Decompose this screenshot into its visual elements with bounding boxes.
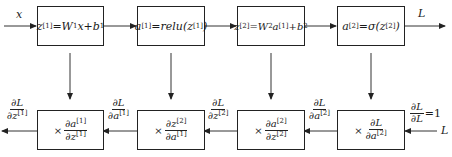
output-loss-label: L (418, 7, 425, 20)
superscript: [1] (177, 130, 187, 138)
symbol: =W (52, 20, 73, 33)
denominator: ∂L (410, 114, 424, 125)
subscript: 1 (100, 22, 104, 30)
superscript: [1] (193, 22, 203, 30)
fraction: ∂z[2] ∂a[1] (165, 118, 188, 143)
denominator: ∂z (7, 110, 17, 121)
superscript: [2] (176, 117, 186, 125)
backward-box-da1-dz1: × ∂a[1] ∂z[1] (37, 110, 104, 150)
symbol: =relu(z (151, 20, 193, 33)
superscript: [2] (277, 117, 287, 125)
grad-dL-da1: ∂L ∂a[1] (107, 98, 130, 121)
denominator: ∂a (108, 110, 119, 121)
backward-box-dL-da2: × ∂L ∂a[2] (337, 110, 405, 150)
superscript: [1] (141, 22, 151, 30)
numerator: ∂L (370, 117, 382, 128)
symbol: =W (249, 21, 268, 32)
symbol: =σ(z (359, 20, 386, 33)
times-sign: × (154, 125, 162, 136)
backward-input-loss-label: L (441, 124, 448, 137)
denominator: ∂z (208, 110, 218, 121)
superscript: [2] (240, 22, 250, 30)
forward-box-a2: a[2]=σ(z[2]) (337, 6, 405, 46)
superscript: [2] (276, 130, 286, 138)
superscript: [2] (218, 109, 228, 117)
fraction: ∂a[2] ∂z[2] (265, 118, 288, 143)
superscript: [1] (76, 130, 86, 138)
numerator: ∂z (166, 118, 176, 129)
backward-box-da2-dz2: × ∂a[2] ∂z[2] (237, 110, 305, 150)
superscript: [1] (279, 22, 289, 30)
superscript: [2] (386, 22, 396, 30)
superscript: [1] (42, 22, 52, 30)
forward-box-a1: a[1]=relu(z[1]) (137, 6, 205, 46)
numerator: ∂a (266, 118, 277, 129)
times-sign: × (354, 125, 362, 136)
input-x-label: x (16, 8, 22, 21)
fraction: ∂L ∂a[2] (365, 118, 388, 141)
fraction: ∂L ∂L (410, 102, 424, 124)
superscript: [1] (119, 109, 129, 117)
fraction: ∂a[1] ∂z[1] (64, 118, 87, 143)
forward-box-z2: z[2]=W2a[1]+b2 (237, 6, 305, 46)
grad-dL-dz2: ∂L ∂z[2] (207, 98, 229, 121)
superscript: [1] (17, 109, 27, 117)
denominator: ∂z (66, 131, 76, 142)
grad-dL-da2: ∂L ∂a[2] (308, 98, 331, 121)
denominator: ∂a (309, 110, 320, 121)
forward-box-z1: z[1]=W1x+b1 (37, 6, 104, 46)
times-sign: × (254, 125, 262, 136)
symbol: x+b (77, 20, 99, 33)
denominator: ∂z (266, 131, 276, 142)
grad-dL-dz1: ∂L ∂z[1] (6, 98, 28, 121)
superscript: [2] (349, 22, 359, 30)
numerator: ∂a (65, 118, 76, 129)
superscript: [2] (320, 109, 330, 117)
symbol: ) (203, 20, 207, 33)
denominator: ∂a (366, 130, 377, 141)
superscript: [1] (76, 117, 86, 125)
numerator: ∂L (410, 102, 424, 114)
denominator: ∂a (166, 131, 177, 142)
symbol: ) (395, 20, 399, 33)
backward-box-dz2-da1: × ∂z[2] ∂a[1] (137, 110, 205, 150)
subscript: 2 (303, 22, 307, 30)
superscript: [2] (377, 129, 387, 137)
times-sign: × (54, 125, 62, 136)
symbol: +b (289, 21, 304, 32)
grad-dL-dL-start: ∂L ∂L =1 (410, 102, 441, 124)
equals-one: =1 (425, 107, 441, 120)
